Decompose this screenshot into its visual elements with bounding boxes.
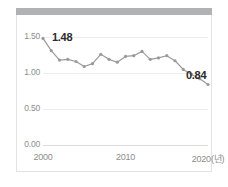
data-point-marker — [124, 55, 127, 58]
data-point-marker — [66, 58, 69, 61]
data-point-marker — [157, 56, 160, 59]
data-point-marker — [107, 58, 110, 61]
annotation-start-value: 1.48 — [52, 31, 72, 43]
series-markers — [41, 37, 209, 86]
data-point-marker — [58, 58, 61, 61]
data-point-marker — [149, 58, 152, 61]
data-point-marker — [173, 59, 176, 62]
data-point-marker — [74, 60, 77, 63]
data-point-marker — [50, 49, 53, 52]
annotation-end-value: 0.84 — [186, 69, 206, 81]
data-point-marker — [140, 50, 143, 53]
series-line — [43, 38, 208, 84]
data-point-marker — [91, 62, 94, 65]
chart-figure: 0.000.501.001.50 200020102020(년) 1.48 0.… — [0, 0, 228, 187]
data-point-marker — [99, 53, 102, 56]
data-point-marker — [165, 54, 168, 57]
data-point-marker — [116, 61, 119, 64]
series-line-chart — [0, 0, 228, 187]
plot-area: 0.000.501.001.50 200020102020(년) 1.48 0.… — [0, 0, 228, 187]
data-point-marker — [83, 65, 86, 68]
data-point-marker — [182, 68, 185, 71]
data-point-marker — [132, 54, 135, 57]
data-point-marker — [41, 37, 44, 40]
data-point-marker — [206, 83, 209, 86]
